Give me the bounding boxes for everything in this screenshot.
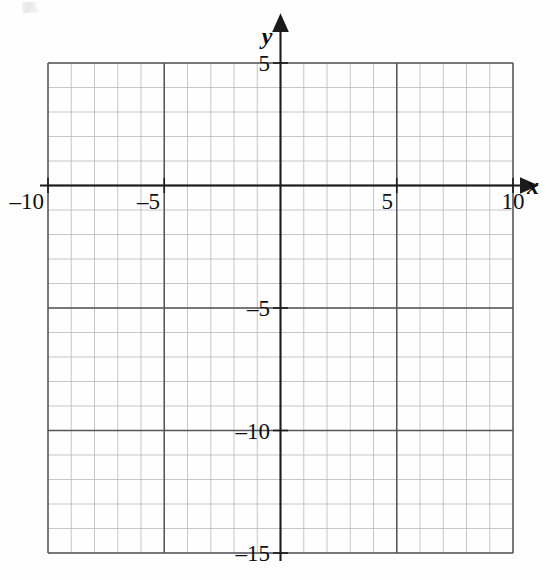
y-tick-label-5: 5 [259,51,271,76]
coordinate-grid-svg: –10 –5 5 10 5 –5 –10 –15 x y [0,0,560,580]
x-tick-label-5: 5 [382,189,394,214]
graph-figure: –10 –5 5 10 5 –5 –10 –15 x y [0,0,560,580]
x-tick-label-neg5: –5 [136,189,160,214]
x-tick-label-neg10: –10 [9,189,45,214]
x-axis-label: x [526,173,539,199]
x-tick-label-10: 10 [502,189,525,214]
y-tick-label-neg10: –10 [235,419,271,444]
y-tick-label-neg5: –5 [246,296,270,321]
y-axis-label: y [259,23,273,49]
y-tick-label-neg15: –15 [235,541,271,566]
